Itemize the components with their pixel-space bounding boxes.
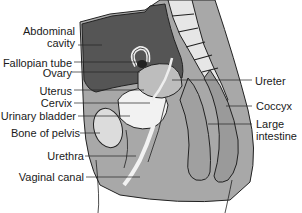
label-ureter: Ureter: [255, 75, 286, 87]
label-abdominal-line1: Abdominal: [23, 25, 75, 37]
label-vaginal-canal: Vaginal canal: [19, 171, 84, 183]
uterus-shape: [138, 64, 182, 98]
label-abdominal-line2: cavity: [23, 37, 75, 49]
label-uterus: Uterus: [40, 85, 72, 97]
label-urinary-bladder: Urinary bladder: [1, 110, 76, 122]
label-coccyx: Coccyx: [256, 100, 292, 112]
label-large-intestine: Large intestine: [256, 118, 297, 142]
ovary-shape: [137, 60, 147, 68]
label-abdominal-cavity: Abdominal cavity: [23, 25, 75, 49]
label-large-line1: Large: [256, 118, 297, 130]
label-large-line2: intestine: [256, 130, 297, 142]
label-bone-of-pelvis: Bone of pelvis: [11, 127, 80, 139]
label-cervix: Cervix: [41, 97, 72, 109]
label-urethra: Urethra: [47, 150, 84, 162]
label-ovary: Ovary: [43, 67, 72, 79]
